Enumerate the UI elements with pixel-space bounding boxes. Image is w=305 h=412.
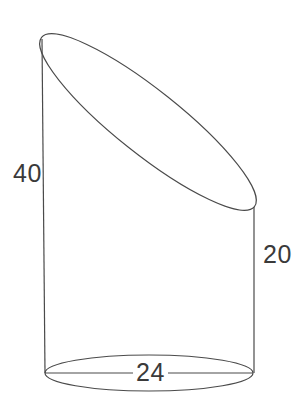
- cylinder-figure: 40 20 24: [0, 0, 305, 412]
- cut-face-ellipse: [22, 12, 275, 231]
- dimension-label-left-height: 40: [13, 161, 42, 186]
- left-side-edge: [42, 39, 45, 373]
- dimension-label-base-diameter: 24: [133, 360, 168, 385]
- cylinder-drawing: [0, 0, 305, 412]
- dimension-label-right-height: 20: [263, 242, 292, 267]
